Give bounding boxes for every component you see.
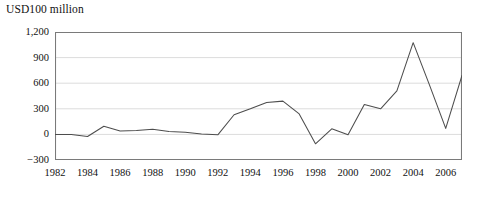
plot-area [55,32,462,160]
gridlines [55,58,462,135]
y-tick-label: 300 [33,104,49,114]
chart-svg [55,32,462,160]
y-tick-label: −300 [27,155,49,165]
y-tick-label: 600 [33,78,49,88]
axis-frame [55,32,462,160]
y-tick-label: 0 [44,129,49,139]
y-tick-label: 1,200 [25,27,49,37]
chart-figure: USD100 million 1,2009006003000−300 19821… [0,0,479,197]
x-axis-tick-labels: 1982198419861988199019921994199619982000… [0,167,479,185]
x-tick-label: 2006 [426,167,466,178]
y-tick-label: 900 [33,53,49,63]
